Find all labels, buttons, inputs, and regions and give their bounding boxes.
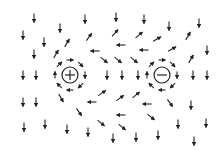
ring-arrow [149, 62, 154, 67]
field-arrow [98, 90, 105, 95]
ring-arrow [149, 83, 154, 88]
charges [62, 67, 170, 83]
ring-arrow [57, 83, 62, 88]
field-arrow [59, 94, 64, 102]
field-arrow [148, 114, 155, 120]
field-arrow [167, 99, 172, 106]
field-arrow [153, 37, 161, 42]
field-arrow [65, 39, 70, 47]
field-arrow [131, 57, 138, 63]
negative-charge [154, 67, 170, 83]
field-arrow [76, 108, 81, 115]
field-arrow [86, 33, 91, 40]
field-arrow [133, 92, 140, 98]
ring-arrow [57, 62, 62, 67]
field-arrow [189, 55, 194, 63]
field-arrow [136, 32, 143, 38]
field-arrow [98, 120, 105, 126]
ring-arrow [78, 83, 83, 88]
ring-arrow [78, 62, 83, 67]
positive-charge [62, 67, 78, 83]
dipole-field-diagram [0, 0, 224, 150]
field-arrows [23, 13, 207, 146]
field-arrow [112, 30, 118, 37]
ring-arrow [170, 62, 175, 67]
field-arrow [119, 124, 126, 130]
field-arrow [101, 57, 108, 63]
field-arrow [54, 50, 59, 58]
ring-arrow [170, 83, 175, 88]
field-arrow [168, 47, 176, 52]
field-arrow [116, 95, 123, 100]
field-arrow [186, 32, 191, 40]
field-arrow [115, 57, 122, 63]
